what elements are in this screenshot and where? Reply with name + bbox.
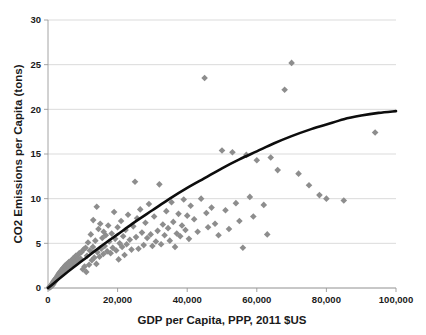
x-tick-label: 0 bbox=[45, 294, 50, 305]
y-tick-label: 0 bbox=[36, 282, 41, 293]
data-point bbox=[208, 204, 215, 211]
data-point bbox=[203, 210, 210, 217]
data-point bbox=[139, 229, 146, 236]
data-point bbox=[341, 197, 348, 204]
data-point bbox=[97, 220, 104, 227]
data-point bbox=[179, 222, 186, 229]
data-point bbox=[90, 217, 97, 224]
data-point bbox=[154, 228, 161, 235]
data-point bbox=[105, 222, 112, 229]
data-point bbox=[219, 147, 226, 154]
x-tick-label: 20,000 bbox=[103, 294, 132, 305]
data-point bbox=[274, 167, 281, 174]
data-point bbox=[316, 192, 323, 199]
data-point bbox=[264, 231, 271, 238]
data-point bbox=[140, 242, 147, 249]
data-point bbox=[260, 202, 267, 209]
data-point bbox=[175, 211, 182, 218]
data-point bbox=[229, 149, 236, 156]
scatter-plot: 051015202530 020,00040,00060,00080,00010… bbox=[0, 0, 426, 335]
data-point bbox=[372, 129, 379, 136]
data-point bbox=[115, 256, 122, 263]
data-point bbox=[156, 181, 163, 188]
data-point bbox=[267, 154, 274, 161]
y-axis-title: CO2 Emissions per Capita (tons) bbox=[12, 64, 24, 243]
data-point bbox=[184, 212, 191, 219]
data-point bbox=[295, 170, 302, 177]
data-point bbox=[222, 207, 229, 214]
x-tick-marks bbox=[48, 288, 396, 292]
x-tick-label: 60,000 bbox=[242, 294, 271, 305]
data-point bbox=[198, 195, 205, 202]
data-point bbox=[114, 224, 121, 231]
data-point bbox=[233, 200, 240, 207]
data-point bbox=[187, 203, 194, 210]
y-tick-label: 15 bbox=[30, 148, 41, 159]
data-point bbox=[135, 245, 142, 252]
data-point bbox=[191, 216, 198, 223]
data-point bbox=[121, 252, 128, 259]
data-point bbox=[186, 236, 193, 243]
y-tick-label: 20 bbox=[30, 104, 41, 115]
data-point bbox=[254, 157, 261, 164]
data-point bbox=[160, 221, 167, 228]
data-point bbox=[165, 225, 172, 232]
data-point bbox=[137, 206, 144, 213]
y-tick-label: 5 bbox=[36, 238, 42, 249]
x-tick-label: 100,000 bbox=[379, 294, 413, 305]
data-point bbox=[132, 178, 139, 185]
data-point bbox=[247, 194, 254, 201]
y-tick-label: 30 bbox=[30, 14, 41, 25]
chart-figure: 051015202530 020,00040,00060,00080,00010… bbox=[0, 0, 426, 335]
x-tick-label: 80,000 bbox=[312, 294, 341, 305]
data-point bbox=[306, 182, 313, 189]
data-point bbox=[142, 219, 149, 226]
x-tick-labels: 020,00040,00060,00080,000100,000 bbox=[45, 294, 413, 305]
data-point bbox=[161, 232, 168, 239]
data-point bbox=[118, 218, 125, 225]
data-point bbox=[128, 246, 135, 253]
data-point bbox=[236, 218, 243, 225]
y-tick-labels: 051015202530 bbox=[30, 14, 41, 293]
x-tick-label: 40,000 bbox=[173, 294, 202, 305]
data-point bbox=[212, 220, 219, 227]
data-point bbox=[88, 231, 95, 238]
data-point bbox=[163, 208, 170, 215]
data-point bbox=[125, 211, 132, 218]
data-point bbox=[194, 228, 201, 235]
data-point bbox=[215, 232, 222, 239]
y-tick-label: 25 bbox=[30, 59, 41, 70]
data-point bbox=[120, 233, 127, 240]
x-axis-title: GDP per Capita, PPP, 2011 $US bbox=[138, 314, 307, 326]
data-point bbox=[182, 227, 189, 234]
data-point bbox=[133, 234, 140, 241]
data-point bbox=[93, 203, 100, 210]
y-tick-marks bbox=[44, 20, 48, 288]
data-point bbox=[93, 261, 100, 268]
data-point bbox=[201, 75, 208, 82]
data-point bbox=[205, 224, 212, 231]
data-point bbox=[180, 196, 187, 203]
data-point bbox=[323, 195, 330, 202]
data-point bbox=[288, 60, 295, 67]
y-tick-label: 10 bbox=[30, 193, 41, 204]
data-point bbox=[240, 245, 247, 252]
data-point bbox=[226, 226, 233, 233]
data-point bbox=[281, 86, 288, 93]
data-point bbox=[146, 201, 153, 208]
data-point bbox=[151, 213, 158, 220]
data-point bbox=[111, 209, 118, 216]
data-point bbox=[170, 219, 177, 226]
data-point bbox=[172, 244, 179, 251]
data-point bbox=[250, 213, 257, 220]
